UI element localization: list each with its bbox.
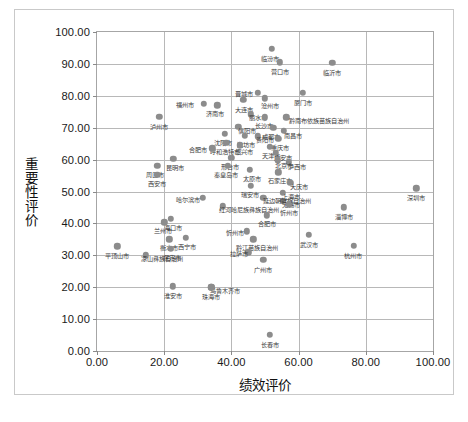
x-axis-tickmark [164, 351, 165, 355]
y-axis-tickmark [93, 128, 97, 129]
y-axis-tickmark [93, 192, 97, 193]
scatter-point[interactable] [270, 124, 276, 130]
scatter-point[interactable] [221, 131, 227, 137]
scatter-point-label: 临沂市 [323, 70, 341, 76]
scatter-point-label: 忻州市 [226, 230, 244, 236]
scatter-point[interactable] [351, 243, 357, 249]
scatter-point[interactable] [341, 204, 347, 210]
scatter-point[interactable] [329, 60, 335, 66]
scatter-point[interactable] [275, 136, 281, 142]
scatter-point-label: 杭州市 [344, 253, 362, 259]
y-axis-tickmark [93, 64, 97, 65]
x-axis-title: 绩效评价 [96, 374, 434, 394]
y-axis-tick-label: 60.00 [62, 154, 91, 166]
scatter-point[interactable] [248, 183, 254, 189]
x-axis-tickmark [97, 351, 98, 355]
scatter-point-label: 合肥市 [189, 147, 207, 153]
y-gridline [97, 64, 433, 65]
scatter-point-label: 红河哈尼族彝族自治州 [219, 207, 279, 213]
scatter-point-label: 西宁市 [178, 244, 196, 250]
scatter-point[interactable] [263, 212, 269, 218]
y-axis-tick-label: 70.00 [62, 122, 91, 134]
x-gridline [231, 32, 232, 351]
scatter-point[interactable] [170, 155, 176, 161]
y-gridline [97, 160, 433, 161]
scatter-point-label: 秦皇岛市 [214, 172, 238, 178]
x-axis-tickmark [433, 351, 434, 355]
y-axis-tick-label: 20.00 [62, 281, 91, 293]
scatter-point-label: 福州市 [176, 102, 194, 108]
scatter-point-label: 平顶山市 [105, 253, 129, 259]
y-axis-tick-label: 50.00 [62, 186, 91, 198]
scatter-point-label: 淄博市 [335, 214, 353, 220]
y-axis-tickmark [93, 319, 97, 320]
scatter-point-label: 沧州市 [261, 103, 279, 109]
scatter-point-label: 贵阳市 [256, 137, 274, 143]
x-axis-tick-label: 60.00 [284, 356, 313, 368]
x-axis-tickmark [366, 351, 367, 355]
y-axis-tick-label: 90.00 [62, 58, 91, 70]
scatter-point[interactable] [214, 102, 220, 108]
scatter-point-label: 泸州市 [150, 124, 168, 130]
scatter-point[interactable] [114, 243, 120, 249]
scatter-point[interactable] [305, 231, 311, 237]
scatter-point[interactable] [260, 257, 266, 263]
scatter-point[interactable] [156, 113, 162, 119]
scatter-point[interactable] [183, 235, 189, 241]
scatter-point-label: 瑞安市 [241, 192, 259, 198]
scatter-point-label: 长春市 [261, 342, 279, 348]
scatter-point[interactable] [169, 283, 175, 289]
y-axis-tick-label: 10.00 [62, 313, 91, 325]
scatter-point-label: 晋城市 [235, 91, 253, 97]
y-gridline [97, 287, 433, 288]
scatter-point-label: 黔南布依族苗族自治州 [289, 118, 349, 124]
x-gridline [299, 32, 300, 351]
scatter-point[interactable] [269, 45, 275, 51]
scatter-point-label: 凉山彝族自治州 [141, 256, 183, 262]
scatter-point-label: 营口市 [271, 69, 289, 75]
x-axis-tick-label: 0.00 [86, 356, 108, 368]
scatter-point-label: 厦门市 [294, 100, 312, 106]
scatter-point-label: 南昌市 [284, 133, 302, 139]
y-axis-tick-label: 80.00 [62, 90, 91, 102]
scatter-point[interactable] [250, 236, 256, 242]
scatter-point[interactable] [267, 332, 273, 338]
scatter-point-label: 广州市 [254, 267, 272, 273]
scatter-point-label: 大庆市 [290, 184, 308, 190]
scatter-point[interactable] [262, 95, 268, 101]
scatter-point-label: 太原市 [243, 176, 261, 182]
plot-area: 0.0010.0020.0030.0040.0050.0060.0070.008… [96, 31, 434, 352]
scatter-point-label: 兰州市 [154, 228, 172, 234]
y-axis-tickmark [93, 32, 97, 33]
scatter-point-label: 武汉市 [300, 242, 318, 248]
scatter-point[interactable] [247, 167, 253, 173]
scatter-point-label: 深圳市 [407, 195, 425, 201]
scatter-point-label: 珠海市 [202, 294, 220, 300]
y-axis-tickmark [93, 223, 97, 224]
scatter-point[interactable] [200, 195, 206, 201]
x-gridline [164, 32, 165, 351]
scatter-point[interactable] [275, 169, 281, 175]
scatter-point[interactable] [262, 114, 268, 120]
x-gridline [366, 32, 367, 351]
scatter-point[interactable] [166, 236, 172, 242]
scatter-point[interactable] [154, 163, 160, 169]
scatter-point[interactable] [242, 132, 248, 138]
y-gridline [97, 319, 433, 320]
y-axis-title: 重要性评价 [20, 31, 40, 352]
scatter-point[interactable] [168, 215, 174, 221]
scatter-point-label: 淮安市 [164, 293, 182, 299]
x-axis-tick-label: 40.00 [217, 356, 246, 368]
scatter-point[interactable] [240, 96, 246, 102]
y-axis-tickmark [93, 96, 97, 97]
scatter-point-label: 拉萨市 [230, 251, 248, 257]
scatter-point[interactable] [243, 228, 249, 234]
x-axis-tick-label: 100.00 [416, 356, 451, 368]
x-axis-tickmark [299, 351, 300, 355]
scatter-point-label: 昆明市 [166, 165, 184, 171]
scatter-chart-figure: 0.0010.0020.0030.0040.0050.0060.0070.008… [0, 0, 468, 422]
y-axis-tickmark [93, 160, 97, 161]
scatter-point-label: 绍兴市 [235, 149, 253, 155]
scatter-point[interactable] [201, 101, 207, 107]
scatter-point-label: 合肥市 [258, 221, 276, 227]
